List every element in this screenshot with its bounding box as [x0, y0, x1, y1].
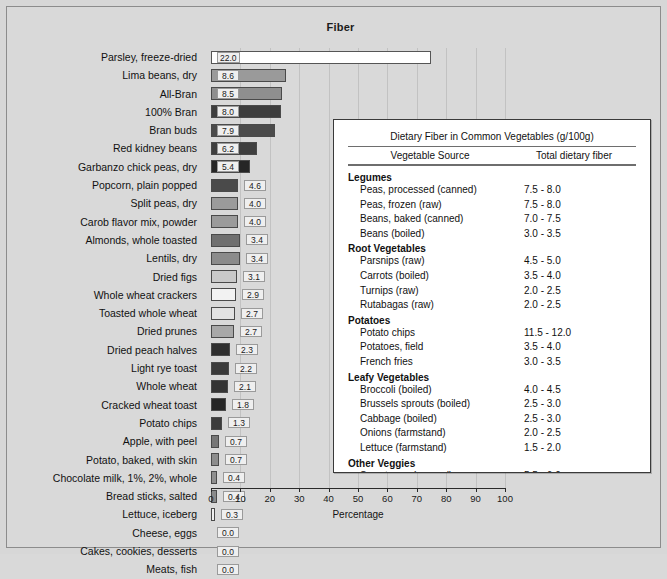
bar-value-label: 8.6 [217, 70, 239, 81]
table-row: Turnips (raw)2.0 - 2.5 [334, 284, 650, 299]
category-label: Chocolate milk, 1%, 2%, whole [14, 469, 204, 487]
bar-value-label: 2.9 [242, 289, 264, 300]
table-cell-value: 11.5 - 12.0 [502, 326, 636, 341]
bar-value-label: 3.4 [246, 253, 268, 264]
x-tick [211, 488, 212, 492]
bar [211, 453, 219, 466]
table-row: Brussels sprouts (boiled)2.5 - 3.0 [334, 397, 650, 412]
bar [211, 252, 240, 265]
table-group-header: Potatoes [334, 313, 650, 326]
x-tick-label: 80 [441, 493, 452, 504]
table-cell-source: Turnips (raw) [360, 284, 502, 299]
table-cell-source: Broccoli (boiled) [360, 383, 502, 398]
category-label: Dried prunes [14, 322, 204, 340]
x-tick [476, 488, 477, 492]
bar-value-label: 8.0 [217, 106, 239, 117]
bar-value-label: 4.0 [244, 216, 266, 227]
bar-value-label: 0.7 [225, 436, 247, 447]
bar [211, 179, 238, 192]
category-label: Dried figs [14, 268, 204, 286]
table-row: Beans (boiled)3.0 - 3.5 [334, 227, 650, 242]
table-cell-source: Beans (boiled) [360, 227, 502, 242]
inset-table-panel: Dietary Fiber in Common Vegetables (g/10… [333, 119, 651, 473]
x-axis-title: Percentage [211, 509, 505, 520]
table-row: Onions (farmstand)2.0 - 2.5 [334, 426, 650, 441]
bar-value-label: 0.0 [217, 527, 239, 538]
category-label: Meats, fish [14, 560, 204, 578]
category-label: Garbanzo chick peas, dry [14, 158, 204, 176]
bar-value-label: 2.1 [234, 381, 256, 392]
bar-row: 0.0 [211, 524, 511, 542]
table-cell-source: Brussels sprouts (boiled) [360, 397, 502, 412]
x-tick-label: 20 [265, 493, 276, 504]
table-cell-value: 2.0 - 2.5 [502, 284, 636, 299]
x-tick-label: 60 [382, 493, 393, 504]
x-tick [387, 488, 388, 492]
bar-row: 0.0 [211, 560, 511, 578]
table-cell-value: 7.0 - 7.5 [502, 212, 636, 227]
bar-value-label: 6.2 [217, 143, 239, 154]
chart-title: Fiber [14, 21, 667, 33]
table-cell-source: Cabbage (boiled) [360, 412, 502, 427]
table-cell-source: Onions (farmstand) [360, 426, 502, 441]
category-label: Whole wheat [14, 377, 204, 395]
bar [211, 270, 237, 283]
x-tick [358, 488, 359, 492]
table-cell-value: 2.5 - 3.0 [502, 397, 636, 412]
table-cell-source: French fries [360, 355, 502, 370]
category-label: Light rye toast [14, 359, 204, 377]
table-cell-value: 4.0 - 4.5 [502, 383, 636, 398]
category-label: Split peas, dry [14, 194, 204, 212]
bar [211, 325, 234, 338]
table-cell-value: 2.0 - 2.5 [502, 298, 636, 313]
table-rule-bottom [348, 164, 636, 166]
x-tick-label: 10 [235, 493, 246, 504]
x-tick [240, 488, 241, 492]
bar-value-label: 1.3 [228, 417, 250, 428]
bar [211, 380, 228, 393]
bar [211, 51, 431, 64]
table-cell-source: Lettuce (farmstand) [360, 441, 502, 456]
x-tick [329, 488, 330, 492]
bar [211, 215, 238, 228]
table-cell-source: Potatoes, field [360, 340, 502, 355]
table-cell-value: 7.5 - 8.0 [502, 183, 636, 198]
table-row: Cabbage (boiled)2.5 - 3.0 [334, 412, 650, 427]
table-cell-value: 2.0 - 2.5 [502, 426, 636, 441]
bar [211, 307, 235, 320]
category-label: Dried peach halves [14, 341, 204, 359]
bar [211, 471, 217, 484]
category-label: All-Bran [14, 85, 204, 103]
table-row: French fries3.0 - 3.5 [334, 355, 650, 370]
bar-value-label: 0.4 [223, 472, 245, 483]
table-cell-value: 2.5 - 3.0 [502, 412, 636, 427]
table-cell-source: Beans, baked (canned) [360, 212, 502, 227]
category-label: Popcorn, plain popped [14, 176, 204, 194]
bar-value-label: 1.8 [232, 399, 254, 410]
bar-value-label: 4.6 [244, 180, 266, 191]
bar [211, 362, 229, 375]
bar-value-label: 7.9 [217, 125, 239, 136]
bar-row: 0.0 [211, 542, 511, 560]
table-cell-source: Potato chips [360, 326, 502, 341]
bar-value-label: 2.7 [240, 326, 262, 337]
category-label: 100% Bran [14, 103, 204, 121]
category-label: Cheese, eggs [14, 524, 204, 542]
table-cell-value: 7.5 - 8.0 [502, 198, 636, 213]
x-tick-label: 0 [208, 493, 213, 504]
bar-row: 22.0 [211, 48, 511, 66]
category-label: Bran buds [14, 121, 204, 139]
table-cell-value: 3.0 - 3.5 [502, 227, 636, 242]
table-row: Beans, baked (canned)7.0 - 7.5 [334, 212, 650, 227]
table-cell-source: Sweet corn (canned) [360, 469, 502, 474]
x-tick-label: 50 [353, 493, 364, 504]
x-tick-label: 100 [497, 493, 513, 504]
table-cell-source: Carrots (boiled) [360, 269, 502, 284]
category-label: Lentils, dry [14, 249, 204, 267]
x-tick [446, 488, 447, 492]
table-title: Dietary Fiber in Common Vegetables (g/10… [334, 120, 650, 146]
bar-value-label: 22.0 [217, 52, 240, 63]
category-label: Potato, baked, with skin [14, 451, 204, 469]
table-cell-value: 3.5 - 4.0 [502, 269, 636, 284]
